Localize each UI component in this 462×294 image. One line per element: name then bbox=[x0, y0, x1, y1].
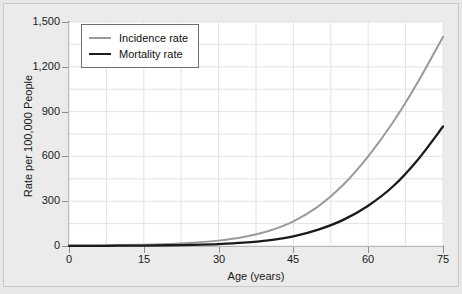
x-tick-label: 0 bbox=[49, 254, 89, 265]
y-tick-mark bbox=[62, 156, 68, 157]
chart-figure: Rate per 100,000 People 03006009001,2001… bbox=[0, 0, 462, 294]
legend-label-incidence: Incidence rate bbox=[119, 32, 188, 44]
x-axis-title: Age (years) bbox=[69, 270, 443, 282]
y-tick-label: 600 bbox=[2, 150, 60, 161]
y-tick-label: 1,200 bbox=[2, 61, 60, 72]
y-tick-mark bbox=[62, 67, 68, 68]
y-axis-title-holder: Rate per 100,000 People bbox=[10, 20, 30, 250]
x-tick-label: 30 bbox=[199, 254, 239, 265]
y-tick-mark bbox=[62, 201, 68, 202]
y-tick-mark bbox=[62, 112, 68, 113]
legend-item-mortality: Mortality rate bbox=[89, 46, 188, 62]
y-tick-label: 0 bbox=[2, 240, 60, 251]
chart-legend: Incidence rate Mortality rate bbox=[81, 24, 199, 68]
series-line-mortality-rate bbox=[69, 127, 443, 246]
x-tick-label: 45 bbox=[273, 254, 313, 265]
y-tick-label: 1,500 bbox=[2, 16, 60, 27]
legend-item-incidence: Incidence rate bbox=[89, 30, 188, 46]
y-tick-label: 900 bbox=[2, 106, 60, 117]
y-axis-title: Rate per 100,000 People bbox=[22, 56, 34, 216]
y-tick-label: 300 bbox=[2, 195, 60, 206]
x-tick-label: 15 bbox=[124, 254, 164, 265]
x-tick-label: 75 bbox=[423, 254, 462, 265]
series-line-incidence-rate bbox=[69, 37, 443, 246]
legend-swatch-incidence bbox=[89, 37, 111, 39]
legend-swatch-mortality bbox=[89, 53, 111, 55]
y-tick-mark bbox=[62, 22, 68, 23]
x-tick-label: 60 bbox=[348, 254, 388, 265]
legend-label-mortality: Mortality rate bbox=[119, 48, 183, 60]
y-tick-mark bbox=[62, 246, 68, 247]
